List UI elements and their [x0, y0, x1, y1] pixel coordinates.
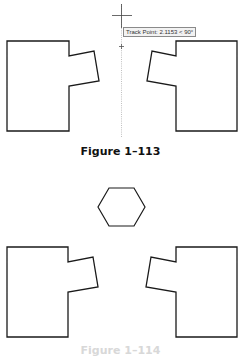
- track-point-marker-icon: [119, 44, 124, 49]
- left-notched-rectangle-2: [7, 247, 98, 337]
- right-notched-rectangle-2: [146, 247, 237, 337]
- hexagon: [98, 188, 145, 226]
- crosshair-cursor-icon: [112, 4, 132, 28]
- right-notched-rectangle: [147, 41, 237, 131]
- left-notched-rectangle: [7, 41, 99, 131]
- figure-caption: Figure 1–113: [0, 145, 241, 158]
- figure-caption-2: Figure 1–114: [0, 344, 241, 357]
- track-point-tooltip: Track Point: 2.1153 < 90°: [123, 27, 196, 37]
